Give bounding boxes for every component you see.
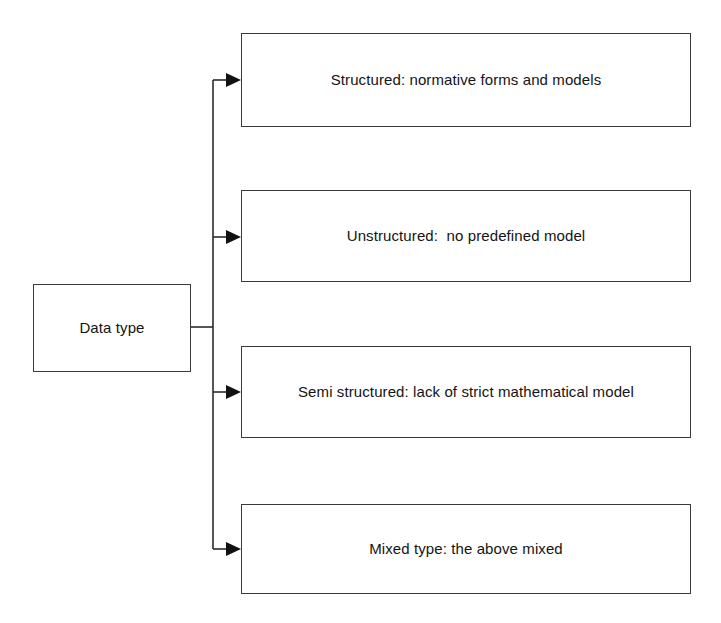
node-data-type[interactable]: Data type [33, 284, 191, 372]
arrowhead-right-icon [226, 385, 241, 399]
node-structured-label: Structured: normative forms and models [331, 71, 602, 89]
node-unstructured[interactable]: Unstructured: no predefined model [241, 190, 691, 282]
node-unstructured-label: Unstructured: no predefined model [347, 227, 586, 245]
node-data-type-label: Data type [79, 319, 144, 337]
node-semi-structured[interactable]: Semi structured: lack of strict mathemat… [241, 346, 691, 438]
node-structured[interactable]: Structured: normative forms and models [241, 33, 691, 127]
diagram-canvas: Data type Structured: normative forms an… [0, 0, 721, 623]
arrowhead-right-icon [226, 73, 241, 87]
node-mixed-type-label: Mixed type: the above mixed [369, 540, 563, 558]
node-mixed-type[interactable]: Mixed type: the above mixed [241, 504, 691, 594]
arrowhead-right-icon [226, 542, 241, 556]
arrowhead-right-icon [226, 230, 241, 244]
node-semi-structured-label: Semi structured: lack of strict mathemat… [298, 383, 634, 401]
